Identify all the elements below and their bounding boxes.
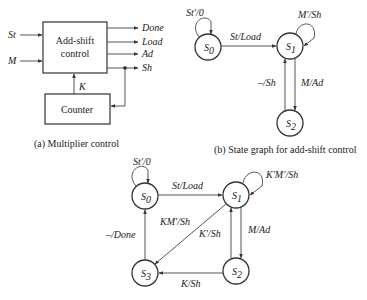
panel-b-state-graph: St′/0 S0 St/Load S1 M′/Sh M/Ad –/Sh S2 (…: [186, 7, 357, 156]
panel-c-state-graph: St′/0 S0 St/Load S1 K′M′/Sh M/Ad K′/Sh K…: [105, 156, 298, 289]
diagram-canvas: Add-shift control St M Done Load Ad Sh C…: [0, 0, 367, 300]
c-s0-s1-label: St/Load: [172, 180, 204, 191]
b-s2-sub: 2: [291, 121, 296, 132]
c-s0-self-label: St′/0: [133, 156, 151, 167]
b-s0-sub: 0: [209, 45, 214, 56]
control-box-label-line1: Add-shift: [56, 35, 95, 46]
c-s1-s2-label: M/Ad: [247, 224, 271, 235]
panel-b-caption: (b) State graph for add-shift control: [214, 144, 357, 156]
b-s1-self-label: M′/Sh: [297, 9, 321, 20]
k-signal-label: K: [78, 81, 87, 92]
panel-a-multiplier-control: Add-shift control St M Done Load Ad Sh C…: [7, 22, 164, 150]
c-s3-sub: 3: [145, 271, 151, 282]
c-s3-s0-label: –/Done: [105, 229, 136, 240]
c-s1-s3-label: KM′/Sh: [159, 216, 190, 227]
sh-to-counter-wire: [111, 68, 125, 106]
c-s2-s1-label: K′/Sh: [198, 228, 221, 239]
c-s0-sub: 0: [146, 194, 151, 205]
output-ad-label: Ad: [141, 48, 154, 59]
b-s1-sub: 1: [291, 44, 296, 55]
b-s1-s2-label: M/Ad: [300, 77, 324, 88]
b-s2-s1-label: –/Sh: [257, 77, 276, 88]
c-s1-self-label: K′M′/Sh: [265, 169, 298, 180]
b-s0-self-label: St′/0: [186, 7, 204, 18]
c-s1-sub: 1: [237, 193, 242, 204]
c-s2-s3-label: K/Sh: [180, 278, 200, 289]
c-s2-sub: 2: [237, 269, 242, 280]
input-m-label: M: [7, 55, 17, 66]
panel-a-caption: (a) Multiplier control: [34, 138, 119, 150]
output-sh-label: Sh: [142, 62, 152, 73]
control-box-label-line2: control: [61, 48, 90, 59]
b-s0-s1-label: St/Load: [230, 31, 262, 42]
output-done-label: Done: [141, 22, 164, 33]
input-st-label: St: [8, 29, 16, 40]
counter-label: Counter: [61, 104, 94, 115]
output-load-label: Load: [141, 36, 164, 47]
